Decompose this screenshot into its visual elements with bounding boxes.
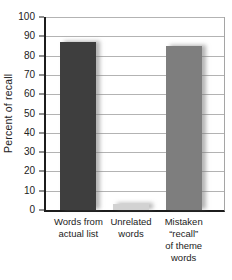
y-tick-label: 0 xyxy=(29,205,35,215)
bar xyxy=(113,204,149,210)
y-tick-label: 60 xyxy=(24,89,35,99)
y-tick-label: 40 xyxy=(24,128,35,138)
bar-column xyxy=(105,17,158,210)
bar-column xyxy=(157,17,210,210)
x-axis-labels: Words from actual listUnrelated wordsMis… xyxy=(46,216,224,264)
y-tick-label: 70 xyxy=(24,70,35,80)
category-label: Words from actual list xyxy=(52,216,105,264)
y-tick-label: 100 xyxy=(18,12,35,22)
bars-row xyxy=(46,17,224,210)
plot-area xyxy=(44,17,225,212)
y-tick-label: 30 xyxy=(24,147,35,157)
y-tick-label: 80 xyxy=(24,51,35,61)
bar xyxy=(60,42,96,210)
category-label: Mistaken “recall” of theme words xyxy=(157,216,210,264)
y-axis: 0102030405060708090100 xyxy=(0,17,44,210)
bar xyxy=(166,46,202,210)
false-memory-bar-chart: Percent of recall 0102030405060708090100… xyxy=(0,0,232,280)
y-tick-label: 10 xyxy=(24,186,35,196)
y-tick-label: 20 xyxy=(24,166,35,176)
bar-column xyxy=(52,17,105,210)
category-label: Unrelated words xyxy=(105,216,158,264)
y-tick-label: 50 xyxy=(24,109,35,119)
y-tick-label: 90 xyxy=(24,31,35,41)
